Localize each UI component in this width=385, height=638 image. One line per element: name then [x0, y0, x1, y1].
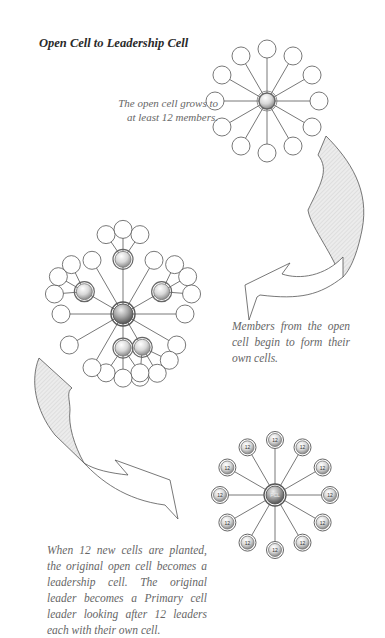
- svg-text:12: 12: [320, 520, 326, 526]
- member-node: [303, 66, 321, 84]
- member-node: [258, 144, 276, 162]
- member-node: [303, 118, 321, 136]
- multiplying-cell-diagram: [45, 220, 200, 387]
- caption-members: Members from the open cell begin to form…: [232, 318, 350, 366]
- sub-member-node: [62, 256, 80, 274]
- svg-text:12: 12: [225, 465, 231, 471]
- svg-text:12: 12: [217, 492, 223, 498]
- member-node: [52, 305, 70, 323]
- sub-member-node: [131, 226, 149, 244]
- member-node: [232, 137, 250, 155]
- sub-member-node: [45, 285, 63, 303]
- svg-text:12: 12: [245, 444, 251, 450]
- original-leader-node: [113, 304, 133, 324]
- svg-text:12: 12: [300, 444, 306, 450]
- sub-member-node: [114, 220, 132, 238]
- caption-leadership: When 12 new cells are planted, the origi…: [47, 542, 207, 638]
- curved-arrow-1: [245, 136, 364, 320]
- member-node: [310, 92, 328, 110]
- caption-open-cell: The open cell grows to at least 12 membe…: [118, 96, 218, 124]
- new-leader-node: [154, 284, 170, 300]
- open-cell-leader-node: [259, 93, 275, 109]
- sub-member-node: [179, 268, 197, 286]
- sub-member-node: [183, 285, 201, 303]
- svg-text:12: 12: [320, 465, 326, 471]
- sub-member-node: [148, 364, 166, 382]
- svg-text:12: 12: [272, 437, 278, 443]
- member-node: [83, 251, 101, 269]
- member-node: [60, 336, 78, 354]
- svg-text:12: 12: [327, 492, 333, 498]
- member-node: [83, 359, 101, 377]
- new-leader-node: [115, 251, 131, 267]
- svg-text:12: 12: [300, 540, 306, 546]
- open-cell-diagram: [206, 40, 328, 162]
- svg-text:PCL: PCL: [270, 492, 280, 498]
- member-node: [145, 251, 163, 269]
- leadership-cell-diagram: 121212121212121212121212PCL: [212, 432, 339, 559]
- member-node: [284, 137, 302, 155]
- sub-member-node: [131, 364, 149, 382]
- svg-text:12: 12: [225, 520, 231, 526]
- member-node: [232, 47, 250, 65]
- sub-member-node: [97, 226, 115, 244]
- member-node: [284, 47, 302, 65]
- new-leader-node: [76, 284, 92, 300]
- svg-text:12: 12: [272, 547, 278, 553]
- member-node: [176, 305, 194, 323]
- new-leader-node: [115, 340, 131, 356]
- sub-member-node: [114, 369, 132, 387]
- member-node: [258, 40, 276, 58]
- svg-text:12: 12: [245, 540, 251, 546]
- new-leader-node: [134, 339, 150, 355]
- member-node: [213, 66, 231, 84]
